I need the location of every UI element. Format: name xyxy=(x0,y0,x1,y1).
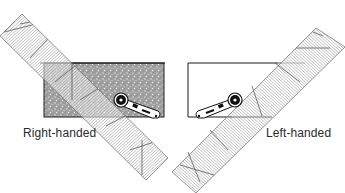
right-handed-panel xyxy=(0,14,168,180)
label-right-handed: Right-handed xyxy=(23,126,96,140)
rotary-cutting-diagram xyxy=(0,0,345,193)
label-left-handed: Left-handed xyxy=(266,126,331,140)
left-handed-panel xyxy=(172,28,345,193)
